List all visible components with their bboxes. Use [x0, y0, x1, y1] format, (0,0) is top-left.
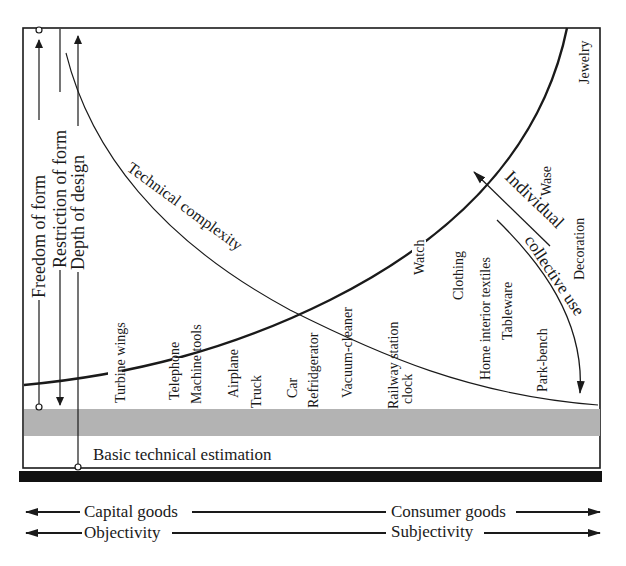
- product-telephone: Telephone: [167, 342, 182, 400]
- base-bar: [19, 471, 602, 482]
- product-machine-tools: Machine tools: [189, 324, 204, 404]
- product-tableware: Tableware: [500, 282, 515, 340]
- objectivity-label: Objectivity: [84, 523, 161, 542]
- product-turbine-wings: Turbine wings: [113, 322, 128, 403]
- product-refridgerator: Refridgerator: [306, 332, 321, 408]
- freedom-of-form-top: [36, 27, 42, 33]
- product-railway-station: Railway station: [386, 322, 401, 410]
- technical-complexity-curve: [66, 53, 598, 405]
- gray-band: [24, 409, 600, 436]
- capital-goods-label: Capital goods: [84, 502, 178, 521]
- product-home-interior-textiles: Home interior textiles: [478, 257, 493, 380]
- technical-complexity-label: Technical complexity: [124, 159, 246, 255]
- product-airplane: Airplane: [226, 349, 241, 398]
- product-wase: Wase: [539, 166, 554, 196]
- product-clock: clock: [400, 374, 415, 404]
- restriction-of-form-label: Restriction of form: [50, 130, 70, 268]
- product-park-bench: Park-bench: [535, 328, 550, 392]
- individual-label: Individual: [501, 166, 568, 232]
- basic-technical-estimation-label: Basic technical estimation: [93, 445, 272, 464]
- product-clothing: Clothing: [451, 251, 466, 300]
- product-jewelry: Jewelry: [577, 40, 592, 84]
- freedom-of-form-label: Freedom of form: [29, 175, 49, 298]
- depth-of-design-origin: [75, 464, 81, 470]
- product-car: Car: [285, 377, 300, 398]
- product-watch: Watch: [412, 240, 427, 275]
- subjectivity-label: Subjectivity: [391, 522, 474, 541]
- freedom-of-form-origin: [36, 404, 42, 410]
- product-decoration: Decoration: [572, 218, 587, 280]
- design-diagram: Freedom of form Restriction of form Dept…: [0, 0, 626, 566]
- depth-of-design-label: Depth of design: [68, 155, 88, 270]
- product-truck: Truck: [249, 375, 264, 408]
- consumer-goods-label: Consumer goods: [391, 502, 506, 521]
- product-vacuum-cleaner: Vacuum-cleaner: [340, 307, 355, 398]
